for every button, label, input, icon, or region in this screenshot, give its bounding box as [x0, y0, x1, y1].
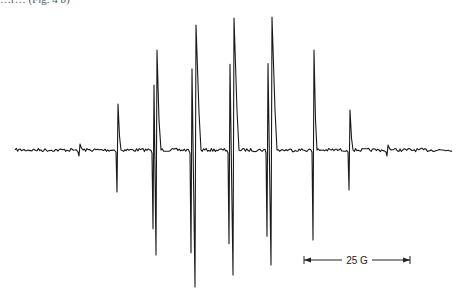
arrow-right-icon	[403, 258, 410, 263]
esr-spectrum-chart: 25 G	[0, 0, 461, 294]
scale-bar: 25 G	[304, 255, 410, 266]
spectrum-trace	[15, 17, 452, 287]
arrow-left-icon	[304, 258, 311, 263]
scale-bar-label: 25 G	[346, 255, 368, 266]
